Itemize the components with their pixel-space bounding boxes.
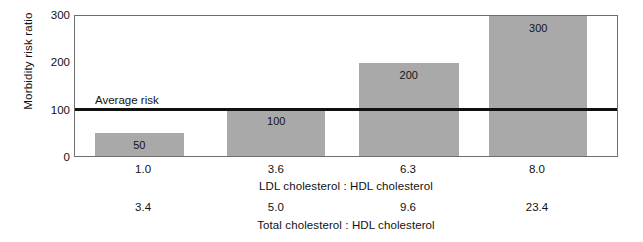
y-axis-tick-labels: 0 100 200 300 [38,0,70,242]
y-tick-0: 0 [40,152,70,164]
y-axis-title: Morbidity risk ratio [22,0,34,141]
average-risk-label: Average risk [95,94,159,106]
x-axis-title-total: Total cholesterol : HDL cholesterol [74,219,618,231]
x-tick-total-1: 3.4 [113,201,173,214]
x-axis-title-ldl: LDL cholesterol : HDL cholesterol [74,180,618,192]
x-tick-ldl-2: 3.6 [246,163,306,176]
x-tick-total-4: 23.4 [507,201,567,214]
y-tick-200: 200 [40,57,70,69]
plot-area: 50 100 200 300 Average risk [74,15,618,157]
x-tick-ldl-1: 1.0 [113,163,173,176]
x-tick-total-3: 9.6 [378,201,438,214]
chart-figure: Morbidity risk ratio 0 100 200 300 50 10… [0,0,643,242]
bar-1: 50 [95,133,184,156]
bar-value-3: 200 [359,70,459,81]
x-tick-ldl-4: 8.0 [507,163,567,176]
average-risk-line [75,108,617,111]
x-tick-ldl-3: 6.3 [378,163,438,176]
bar-value-4: 300 [489,23,587,34]
bar-value-1: 50 [95,140,184,151]
x-tick-total-2: 5.0 [246,201,306,214]
x-axis-tick-row-ldl: 1.0 3.6 6.3 8.0 [74,163,618,179]
y-tick-300: 300 [40,10,70,22]
x-axis-tick-row-total: 3.4 5.0 9.6 23.4 [74,201,618,217]
y-tick-100: 100 [40,105,70,117]
bar-value-2: 100 [227,116,325,127]
bar-2: 100 [227,109,325,156]
bar-4: 300 [489,16,587,156]
